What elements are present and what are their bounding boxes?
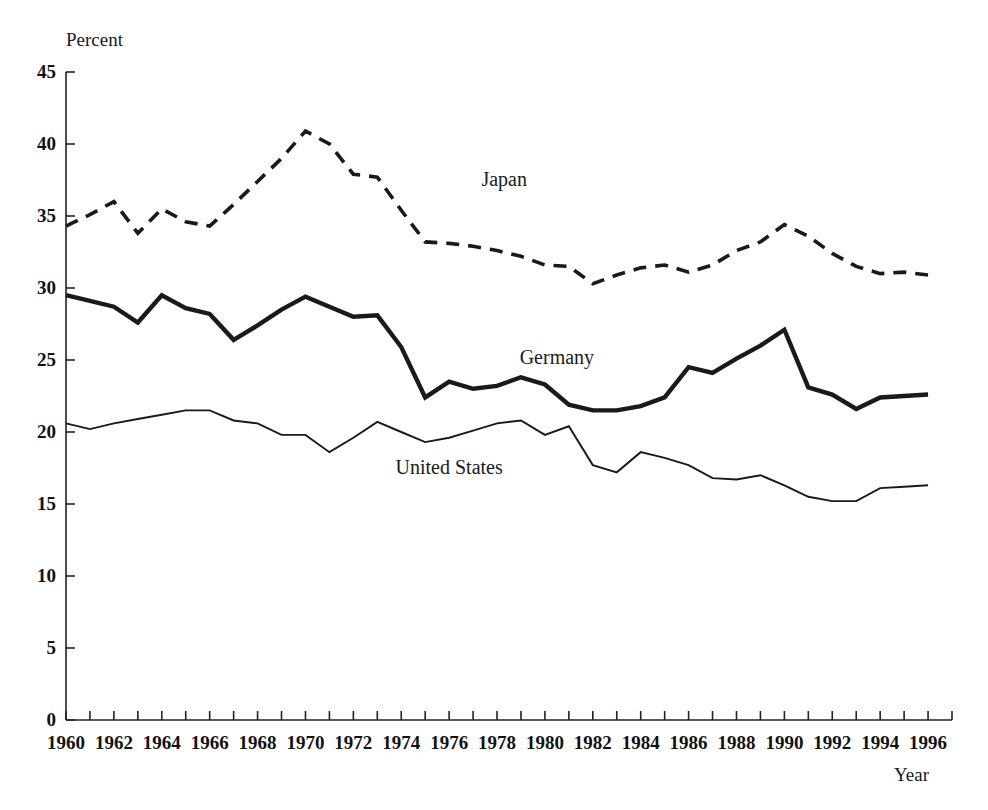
x-tick-label: 1988 — [717, 732, 755, 754]
x-tick-label: 1984 — [622, 732, 660, 754]
x-tick-label: 1960 — [47, 732, 85, 754]
y-tick-label: 15 — [8, 493, 56, 515]
x-tick-label: 1964 — [143, 732, 181, 754]
x-tick-label: 1966 — [191, 732, 229, 754]
x-tick-label: 1978 — [478, 732, 516, 754]
y-axis-title: Percent — [66, 29, 123, 51]
line-chart-plot — [0, 0, 988, 810]
series-line-japan — [66, 131, 928, 284]
chart-figure: Percent Year 051015202530354045 19601962… — [0, 0, 988, 810]
x-axis-title: Year — [894, 764, 929, 786]
series-line-germany — [66, 295, 928, 410]
y-tick-label: 0 — [8, 709, 56, 731]
x-tick-label: 1990 — [765, 732, 803, 754]
y-tick-label: 45 — [8, 61, 56, 83]
x-tick-label: 1970 — [286, 732, 324, 754]
x-tick-label: 1992 — [813, 732, 851, 754]
x-tick-label: 1986 — [670, 732, 708, 754]
x-tick-label: 1972 — [334, 732, 372, 754]
series-label-germany: Germany — [520, 346, 594, 369]
x-tick-label: 1996 — [909, 732, 947, 754]
y-tick-label: 35 — [8, 205, 56, 227]
y-tick-label: 30 — [8, 277, 56, 299]
series-label-japan: Japan — [481, 167, 527, 190]
series-label-united-states: United States — [396, 455, 503, 478]
x-tick-label: 1976 — [430, 732, 468, 754]
x-tick-label: 1982 — [574, 732, 612, 754]
y-tick-label: 20 — [8, 421, 56, 443]
x-tick-label: 1980 — [526, 732, 564, 754]
x-tick-label: 1962 — [95, 732, 133, 754]
x-tick-label: 1974 — [382, 732, 420, 754]
x-tick-label: 1994 — [861, 732, 899, 754]
y-tick-label: 5 — [8, 637, 56, 659]
y-tick-label: 25 — [8, 349, 56, 371]
x-tick-label: 1968 — [239, 732, 277, 754]
y-tick-label: 40 — [8, 133, 56, 155]
y-tick-label: 10 — [8, 565, 56, 587]
